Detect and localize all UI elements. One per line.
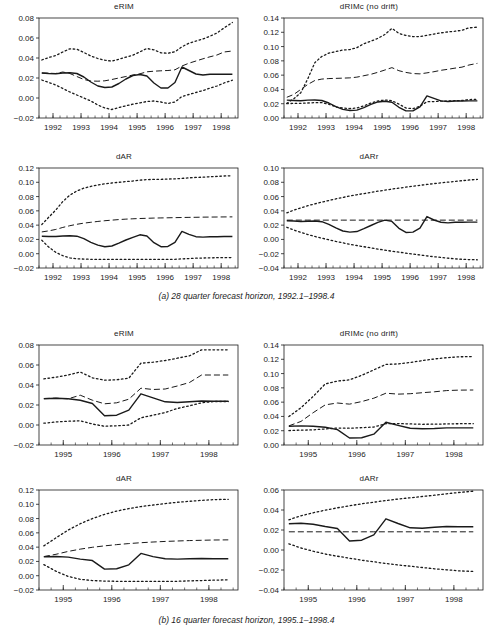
chart-a-darr: dARr −0.04−0.020.000.020.040.060.080.101… — [247, 152, 491, 292]
plot-area: 0.000.020.040.060.080.100.120.1419921993… — [247, 2, 491, 146]
plot-area: −0.020.000.020.040.060.08199219931994199… — [2, 2, 246, 146]
plot-area: −0.020.000.020.040.060.08199519961997199… — [2, 329, 246, 473]
x-tick-label: 1992 — [289, 273, 307, 282]
y-tick-label: 0.04 — [18, 381, 34, 390]
plot-frame — [39, 345, 238, 445]
y-tick-label: 0.06 — [18, 529, 34, 538]
plot-svg: 0.000.020.040.060.080.100.120.1419921993… — [247, 2, 491, 142]
series-lower-band — [289, 544, 473, 572]
x-tick-label: 1997 — [396, 595, 414, 604]
y-tick-label: 0.12 — [263, 355, 279, 364]
y-tick-label: −0.02 — [259, 250, 280, 259]
x-tick-label: 1995 — [128, 123, 146, 132]
x-tick-label: 1997 — [151, 450, 169, 459]
x-tick-label: 1994 — [345, 123, 363, 132]
y-tick-label: 0.00 — [18, 421, 34, 430]
y-tick-label: 0.04 — [263, 85, 279, 94]
chart-b-drimc: dRIMc (no drift) 0.000.020.040.060.080.1… — [247, 329, 491, 469]
y-tick-label: 0.04 — [18, 543, 34, 552]
y-tick-label: 0.02 — [18, 235, 34, 244]
y-tick-label: 0.10 — [18, 500, 34, 509]
x-tick-label: 1992 — [44, 273, 62, 282]
series-actual — [44, 394, 228, 416]
series-forecast-mean — [42, 217, 233, 232]
caption-panel-b: (b) 16 quarter forecast horizon, 1995.1–… — [0, 615, 493, 625]
series-lower-band — [42, 240, 233, 259]
chart-b-darr: dARr −0.04−0.020.000.020.040.06199519961… — [247, 474, 491, 614]
plot-frame — [39, 18, 238, 118]
y-tick-label: 0.02 — [263, 427, 279, 436]
y-tick-label: 0.02 — [18, 557, 34, 566]
y-tick-label: 0.00 — [18, 250, 34, 259]
y-tick-label: 0.06 — [263, 486, 279, 495]
caption-panel-a: (a) 28 quarter forecast horizon, 1992.1–… — [0, 291, 493, 301]
figure-root: eRIM −0.020.000.020.040.060.081992199319… — [0, 0, 493, 639]
x-tick-label: 1994 — [100, 273, 118, 282]
series-lower-band — [42, 80, 233, 110]
x-tick-label: 1994 — [345, 273, 363, 282]
y-tick-label: 0.08 — [263, 178, 279, 187]
x-tick-label: 1997 — [429, 123, 447, 132]
y-tick-label: 0.10 — [263, 43, 279, 52]
series-lower-band — [287, 227, 478, 260]
y-tick-label: 0.02 — [18, 74, 34, 83]
x-tick-label: 1995 — [54, 595, 72, 604]
x-tick-label: 1998 — [445, 450, 463, 459]
y-tick-label: 0.08 — [18, 14, 34, 23]
y-tick-label: 0.00 — [18, 94, 34, 103]
series-forecast-mean — [289, 390, 473, 426]
x-tick-label: 1993 — [317, 273, 335, 282]
chart-b-dar: dAR −0.020.000.020.040.060.080.100.12199… — [2, 474, 246, 614]
y-tick-label: 0.06 — [18, 207, 34, 216]
plot-svg: −0.020.000.020.040.060.080.100.121992199… — [2, 152, 246, 292]
y-tick-label: 0.02 — [18, 401, 34, 410]
x-tick-label: 1998 — [445, 595, 463, 604]
y-tick-label: −0.04 — [259, 264, 280, 273]
x-tick-label: 1998 — [457, 123, 475, 132]
plot-frame — [284, 168, 483, 268]
series-upper-band — [289, 491, 473, 520]
series-actual — [289, 519, 473, 541]
y-tick-label: 0.12 — [263, 28, 279, 37]
plot-frame — [284, 490, 483, 590]
x-tick-label: 1995 — [299, 450, 317, 459]
series-actual — [287, 217, 478, 233]
y-tick-label: 0.02 — [263, 100, 279, 109]
plot-svg: −0.04−0.020.000.020.040.060.080.10199219… — [247, 152, 491, 292]
x-tick-label: 1997 — [396, 450, 414, 459]
x-tick-label: 1996 — [103, 595, 121, 604]
series-actual — [42, 67, 233, 88]
series-lower-band — [287, 99, 478, 108]
x-tick-label: 1995 — [128, 273, 146, 282]
y-tick-label: 0.06 — [263, 398, 279, 407]
chart-a-drimc: dRIMc (no drift) 0.000.020.040.060.080.1… — [247, 2, 491, 142]
x-tick-label: 1995 — [299, 595, 317, 604]
plot-area: 0.000.020.040.060.080.100.120.1419951996… — [247, 329, 491, 473]
y-tick-label: 0.02 — [263, 221, 279, 230]
y-tick-label: 0.08 — [18, 193, 34, 202]
x-tick-label: 1996 — [103, 450, 121, 459]
y-tick-label: 0.06 — [263, 193, 279, 202]
x-tick-label: 1996 — [156, 273, 174, 282]
x-tick-label: 1997 — [429, 273, 447, 282]
y-tick-label: 0.10 — [263, 164, 279, 173]
series-upper-band — [289, 357, 473, 417]
y-tick-label: −0.04 — [259, 586, 280, 595]
series-actual — [42, 231, 233, 246]
y-tick-label: 0.08 — [263, 57, 279, 66]
x-tick-label: 1998 — [457, 273, 475, 282]
y-tick-label: 0.06 — [18, 361, 34, 370]
x-tick-label: 1993 — [72, 273, 90, 282]
y-tick-label: 0.12 — [18, 486, 34, 495]
y-tick-label: 0.00 — [263, 546, 279, 555]
x-tick-label: 1997 — [151, 595, 169, 604]
y-tick-label: 0.08 — [18, 515, 34, 524]
y-tick-label: −0.02 — [14, 264, 35, 273]
chart-b-erim: eRIM −0.020.000.020.040.060.081995199619… — [2, 329, 246, 469]
x-tick-label: 1994 — [100, 123, 118, 132]
series-upper-band — [287, 27, 478, 103]
plot-svg: −0.020.000.020.040.060.08199519961997199… — [2, 329, 246, 469]
chart-a-dar: dAR −0.020.000.020.040.060.080.100.12199… — [2, 152, 246, 292]
x-tick-label: 1995 — [373, 123, 391, 132]
plot-svg: −0.020.000.020.040.060.080.100.121995199… — [2, 474, 246, 614]
